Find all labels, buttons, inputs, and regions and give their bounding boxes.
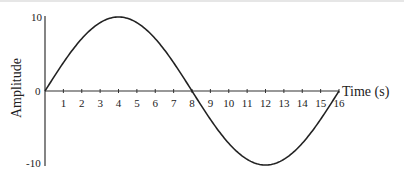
y-tick-label-neg10: -10: [26, 157, 41, 169]
x-tick-label: 14: [297, 97, 309, 109]
sine-wave-chart: 12345678910111213141516 10 0 -10 Time (s…: [0, 0, 404, 179]
y-axis-title: Amplitude: [9, 58, 24, 118]
x-ticks: 12345678910111213141516: [61, 89, 345, 109]
x-tick-label: 10: [223, 97, 235, 109]
x-tick-label: 15: [315, 97, 327, 109]
x-tick-label: 6: [153, 97, 159, 109]
x-tick-label: 9: [208, 97, 214, 109]
x-tick-label: 5: [134, 97, 140, 109]
x-axis-title: Time (s): [342, 84, 390, 100]
x-tick-label: 1: [61, 97, 67, 109]
x-tick-label: 12: [260, 97, 271, 109]
x-tick-label: 2: [79, 97, 85, 109]
x-tick-label: 11: [242, 97, 253, 109]
y-tick-label-0: 0: [35, 85, 41, 97]
x-tick-label: 7: [171, 97, 177, 109]
x-tick-label: 3: [97, 97, 103, 109]
x-tick-label: 13: [278, 97, 290, 109]
x-tick-label: 4: [116, 97, 122, 109]
x-tick-label: 8: [189, 97, 195, 109]
y-tick-label-10: 10: [31, 11, 43, 23]
